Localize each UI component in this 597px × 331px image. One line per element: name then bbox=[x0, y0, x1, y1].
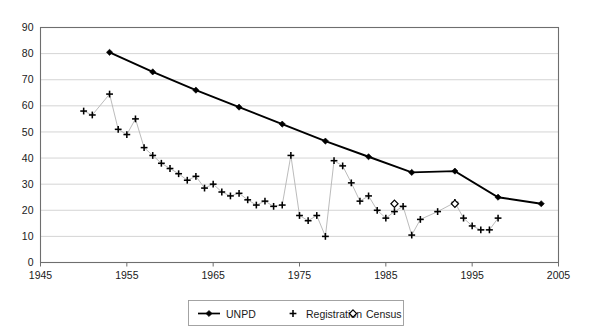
y-tick-label: 90 bbox=[22, 21, 34, 33]
y-tick-label: 40 bbox=[22, 152, 34, 164]
chart-container: 0102030405060708090 19451955196519751985… bbox=[0, 0, 597, 331]
x-tick-label: 1945 bbox=[29, 269, 53, 281]
x-tick-label: 1975 bbox=[288, 269, 312, 281]
chart-background bbox=[0, 0, 597, 331]
y-tick-label: 0 bbox=[28, 256, 34, 268]
x-tick-label: 1955 bbox=[115, 269, 139, 281]
x-tick-label: 1985 bbox=[374, 269, 398, 281]
x-tick-label: 1965 bbox=[201, 269, 225, 281]
y-tick-label: 50 bbox=[22, 126, 34, 138]
y-tick-label: 30 bbox=[22, 178, 34, 190]
legend-label-unpd: UNPD bbox=[226, 308, 256, 320]
x-tick-label: 2005 bbox=[547, 269, 571, 281]
line-chart: 0102030405060708090 19451955196519751985… bbox=[0, 0, 597, 331]
y-tick-label: 70 bbox=[22, 73, 34, 85]
y-tick-label: 60 bbox=[22, 99, 34, 111]
chart-legend: UNPDRegistrationCensus bbox=[189, 301, 404, 326]
y-tick-label: 20 bbox=[22, 204, 34, 216]
x-tick-label: 1995 bbox=[460, 269, 484, 281]
y-tick-label: 80 bbox=[22, 47, 34, 59]
legend-label-census: Census bbox=[366, 308, 402, 320]
y-tick-label: 10 bbox=[22, 230, 34, 242]
